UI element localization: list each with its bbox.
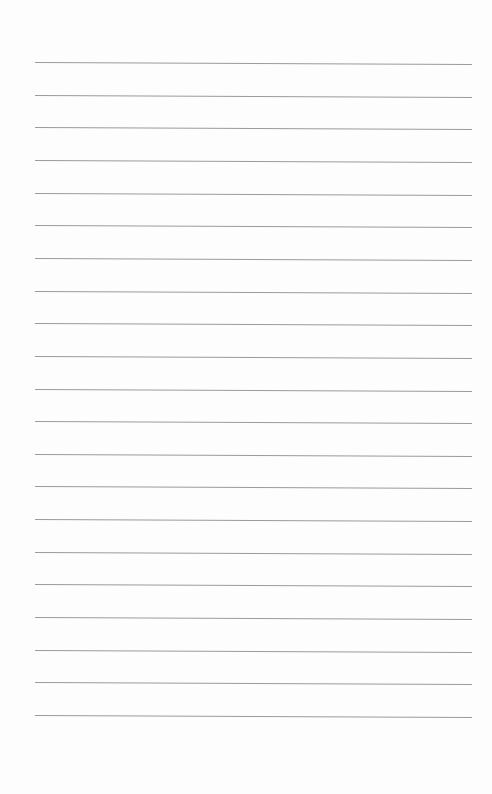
ruled-line [35,291,472,294]
ruled-line [35,617,472,620]
ruled-line [35,682,472,685]
ruled-line [35,486,472,489]
ruled-line [35,356,472,359]
ruled-line [35,323,472,326]
ruled-line [35,552,472,555]
ruled-line [35,519,472,522]
lined-paper-page [0,0,492,794]
ruled-line [35,62,472,65]
ruled-line [35,127,472,130]
ruled-line [35,258,472,261]
ruled-line [35,584,472,587]
ruled-line [35,160,472,163]
ruled-line [35,95,472,98]
ruled-line [35,421,472,424]
ruled-line [35,454,472,457]
ruled-line [35,193,472,196]
ruled-line [35,650,472,653]
ruled-line [35,389,472,392]
ruled-line [35,715,472,718]
ruled-line [35,225,472,228]
